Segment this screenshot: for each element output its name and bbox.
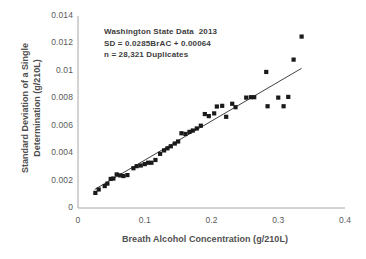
x-tick-label: 0.2 [192, 215, 232, 225]
x-tick-label: 0.3 [258, 215, 298, 225]
y-axis-title: Standard Deviation of a Single Determina… [19, 13, 43, 203]
annotation-line-source: Washington State Data 2013 [104, 26, 217, 38]
x-tick-label: 0.4 [325, 215, 365, 225]
scatter-chart: 00.0020.0040.0060.0080.010.0120.014 00.1… [0, 0, 366, 259]
x-tick-label: 0 [58, 215, 98, 225]
y-tick-label: 0 [31, 202, 73, 212]
x-axis-title: Breath Alcohol Concentration (g/210L) [60, 234, 350, 244]
x-tick-label: 0.1 [125, 215, 165, 225]
annotation-line-sample-size: n = 28,321 Duplicates [104, 49, 217, 61]
y-axis-title-line2: Determination (g/210L) [31, 13, 43, 203]
chart-annotation-block: Washington State Data 2013 SD = 0.0285Br… [104, 26, 217, 61]
y-axis-title-line1: Standard Deviation of a Single [19, 13, 31, 203]
annotation-line-equation: SD = 0.0285BrAC + 0.00064 [104, 38, 217, 50]
